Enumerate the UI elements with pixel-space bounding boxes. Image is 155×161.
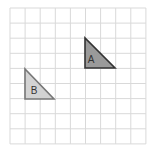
triangle-b-label: B — [31, 85, 38, 96]
grid-diagram: A B — [0, 0, 155, 161]
triangle-a-label: A — [88, 54, 95, 65]
